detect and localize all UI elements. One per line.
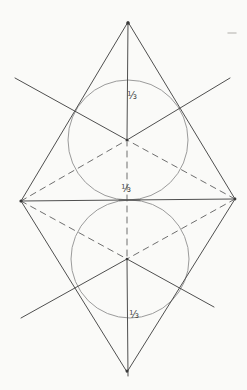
bottom-triangle-right-edge <box>127 199 235 372</box>
dashed-left-vertex-to-top-centroid <box>21 140 127 201</box>
geometry-diagram: ⅓⅓⅓ <box>0 0 247 390</box>
bottom-centroid-dot <box>126 258 129 261</box>
fraction-label-middle: ⅓ <box>121 183 131 194</box>
vertical-axis-bottom-solid <box>127 259 128 376</box>
bottom-apex-dot <box>126 370 129 373</box>
top-median-extension-upper-right <box>127 78 230 140</box>
top-apex-dot <box>126 21 130 25</box>
top-triangle-right-edge <box>128 22 235 199</box>
bottom-triangle-left-edge <box>21 201 127 372</box>
dashed-left-vertex-to-bottom-centroid <box>21 201 127 259</box>
fraction-label-bottom: ⅓ <box>129 309 139 320</box>
right-vertex-dot <box>234 198 237 201</box>
top-median-extension-upper-left <box>15 78 127 140</box>
dashed-right-vertex-to-top-centroid <box>127 140 235 199</box>
scanned-diagram-page: ⅓⅓⅓ <box>0 0 247 390</box>
fraction-labels-layer: ⅓⅓⅓ <box>121 90 139 320</box>
solid-construction-lines-layer <box>15 22 235 376</box>
bottom-median-extension-lower-left <box>21 259 127 318</box>
bottom-median-extension-lower-right <box>127 259 214 307</box>
fraction-label-top: ⅓ <box>127 90 137 101</box>
left-vertex-dot <box>19 199 22 202</box>
top-centroid-dot <box>126 139 129 142</box>
vertical-axis-top-solid <box>127 22 128 140</box>
